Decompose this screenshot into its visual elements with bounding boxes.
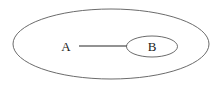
outer-ellipse[interactable] (13, 9, 209, 79)
diagram-svg: A B (0, 0, 222, 90)
diagram-canvas: A B (0, 0, 222, 90)
node-label-b: B (148, 39, 157, 54)
node-label-a: A (61, 39, 71, 54)
